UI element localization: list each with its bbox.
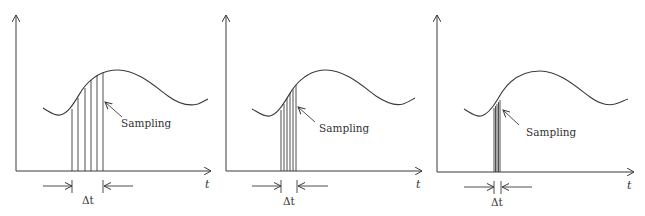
- sample-lines: [281, 85, 296, 171]
- panel-2: t Sampling Δt: [226, 15, 422, 207]
- signal-curve: [464, 71, 628, 116]
- delta-t-indicator: Δt: [464, 181, 532, 208]
- delta-t-indicator: Δt: [43, 180, 133, 206]
- sampling-label: Sampling: [319, 122, 370, 134]
- signal-curve: [252, 70, 415, 116]
- x-axis-label: t: [416, 178, 421, 191]
- sampling-pointer-arrow: [105, 102, 122, 117]
- sampling-diagram: t Sampling Δt t: [0, 0, 645, 216]
- sampling-pointer-arrow: [503, 110, 519, 125]
- sampling-pointer-arrow: [298, 107, 315, 122]
- sampling-label: Sampling: [526, 126, 577, 138]
- delta-t-label: Δt: [491, 196, 504, 208]
- x-axis-label: t: [627, 179, 632, 192]
- sample-lines: [72, 73, 103, 171]
- sample-lines: [494, 100, 500, 172]
- sampling-label: Sampling: [121, 117, 172, 129]
- delta-t-indicator: Δt: [252, 180, 328, 207]
- panel-1: t Sampling Δt: [16, 15, 211, 206]
- panel-3: t Sampling Δt: [437, 15, 634, 208]
- delta-t-label: Δt: [82, 194, 95, 206]
- x-axis-label: t: [205, 178, 210, 191]
- delta-t-label: Δt: [283, 195, 296, 207]
- signal-curve: [43, 70, 208, 115]
